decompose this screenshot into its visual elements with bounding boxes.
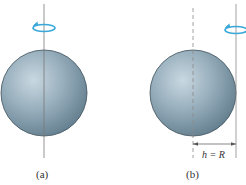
dimension-h: [193, 142, 236, 145]
panel-label-a: (a): [36, 168, 48, 180]
dimension-label-h: h = R: [202, 149, 225, 160]
panel-b: [150, 4, 246, 158]
rotation-arrow-icon: [225, 24, 246, 34]
panel-a: [1, 4, 87, 158]
panel-label-b: (b): [186, 168, 199, 180]
